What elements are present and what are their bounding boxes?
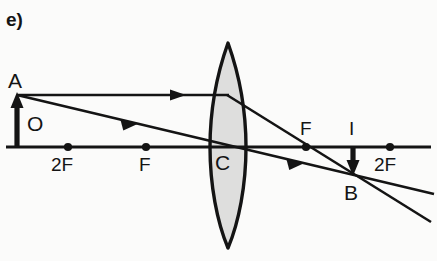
label-lens-center-c: C (215, 152, 230, 173)
figure-canvas: e) A O 2F F C F I 2F B (0, 0, 437, 261)
label-image-i: I (349, 119, 354, 138)
part-label: e) (6, 10, 23, 29)
label-object-tip-a: A (8, 70, 22, 91)
object-arrow (11, 92, 24, 147)
label-2f-right: 2F (374, 155, 396, 174)
label-object-o: O (27, 113, 43, 134)
label-f-left: F (139, 155, 151, 174)
axis-point-2f-left (64, 143, 72, 151)
ray-diagram (0, 0, 437, 261)
label-f-right: F (300, 119, 312, 138)
label-2f-left: 2F (51, 155, 73, 174)
axis-point-f-left (142, 143, 150, 151)
label-image-tip-b: B (344, 182, 358, 203)
axis-point-2f-right (386, 143, 394, 151)
ray-parallel-arrowhead (170, 90, 186, 101)
